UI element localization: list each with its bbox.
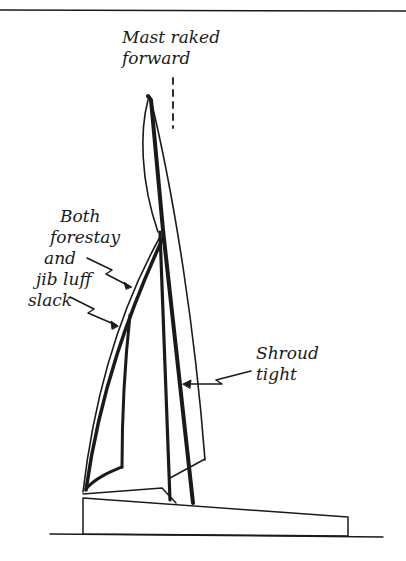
forestay-label-line-1: Both [44, 206, 101, 226]
forestay-label-line-3: and [44, 248, 76, 268]
hull [83, 498, 348, 536]
mast-label-line-1: Mast raked [122, 27, 220, 47]
arrow-shroud [183, 380, 191, 388]
shroud-label-line-1: Shroud [256, 343, 319, 363]
mast-label-line-2: forward [122, 48, 190, 68]
forestay-label-line-2: forestay [44, 227, 120, 247]
shroud-label-line-2: tight [256, 364, 297, 384]
mast [148, 96, 193, 503]
mainsail-leech [151, 100, 205, 460]
forestay-jib-slack-label: Both forestay and jib luff slack [44, 206, 120, 311]
rig-diagram: Mast raked forward Both forestay and jib… [0, 0, 406, 561]
arrow-forestay [124, 282, 131, 289]
top-rule [0, 10, 406, 11]
arrow-jib-luff [111, 321, 118, 329]
forestay-label-line-5: slack [28, 290, 72, 310]
shroud-tight-label: Shroud tight [256, 343, 319, 385]
jib-foot [86, 467, 122, 489]
forestay-label-line-4: jib luff [36, 269, 91, 289]
mast-raked-forward-label: Mast raked forward [122, 27, 220, 69]
